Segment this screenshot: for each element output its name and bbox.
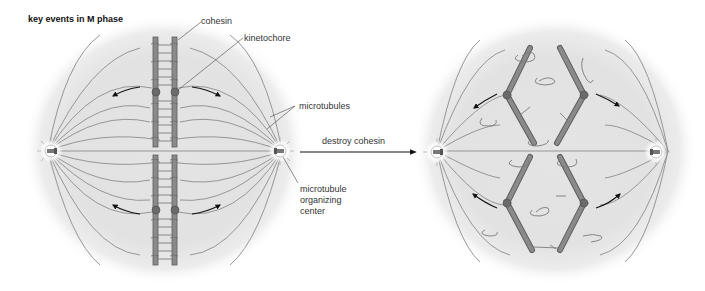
label-mtoc-3: center xyxy=(300,206,325,217)
label-mtoc-1: microtubule xyxy=(300,184,347,195)
figure-title: key events in M phase xyxy=(28,14,123,24)
kinetochore-right-lower xyxy=(171,206,179,214)
cell-before xyxy=(23,15,307,285)
label-destroy-cohesin: destroy cohesin xyxy=(322,136,385,147)
kinetochore-left-upper xyxy=(152,88,160,96)
cell-after xyxy=(413,15,697,285)
kinetochore xyxy=(580,91,588,99)
label-mtoc-2: organizing xyxy=(300,195,342,206)
kinetochore xyxy=(580,199,588,207)
kinetochore xyxy=(503,199,511,207)
label-microtubules: microtubules xyxy=(299,101,350,112)
kinetochore-left-lower xyxy=(152,206,160,214)
cell-body xyxy=(23,15,307,285)
label-cohesin: cohesin xyxy=(201,16,232,27)
kinetochore xyxy=(503,91,511,99)
kinetochore-right-upper xyxy=(171,88,179,96)
label-kinetochore: kinetochore xyxy=(244,33,291,44)
